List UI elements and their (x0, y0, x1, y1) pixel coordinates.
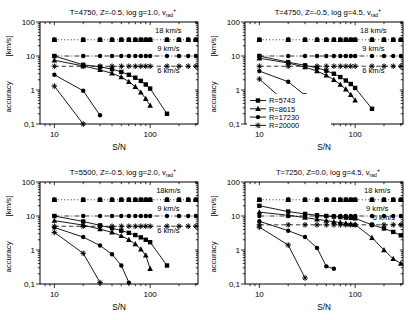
circle-marker (110, 54, 114, 58)
square-marker (349, 216, 353, 220)
panel-bottom-left: T=5500, Z=-0.5, log g=2.0, vrad+10100100… (0, 160, 205, 320)
y-tick-label: 0,1 (229, 120, 241, 129)
square-marker (144, 82, 148, 86)
annotation: 9 km/s (157, 44, 180, 53)
circle-marker (286, 228, 290, 232)
y-axis-label-units: [km/s] (4, 36, 13, 57)
y-axis-label-quantity: accuracy (4, 81, 13, 112)
circle-marker (133, 54, 137, 58)
square-marker (344, 215, 348, 219)
circle-marker (324, 264, 328, 268)
circle-marker (127, 280, 131, 284)
circle-marker (139, 54, 143, 58)
square-marker (382, 226, 386, 230)
circle-marker (186, 214, 190, 218)
circle-marker (81, 54, 85, 58)
panel-bottom-right: T=7250, Z=0.0, log g=4.5, vrad+101001001… (205, 160, 409, 320)
square-marker (370, 107, 374, 111)
square-marker (324, 214, 328, 218)
y-tick-label: 0,1 (24, 280, 36, 289)
circle-marker (186, 54, 190, 58)
circle-marker (144, 54, 148, 58)
x-axis-label: S/N (112, 143, 126, 152)
square-marker (349, 82, 353, 86)
circle-marker (382, 54, 386, 58)
y-axis-label-units: [km/s] (209, 196, 218, 217)
y-axis-label-quantity: accuracy (209, 81, 218, 112)
y-tick-label: 100 (22, 18, 36, 27)
square-marker (338, 75, 342, 79)
annotation: 18km/s (156, 186, 181, 195)
circle-marker (257, 69, 261, 73)
square-marker (338, 215, 342, 219)
square-marker (257, 204, 261, 208)
square-marker (370, 223, 374, 227)
circle-marker (133, 214, 137, 218)
square-marker (344, 78, 348, 82)
circle-marker (81, 235, 85, 239)
y-tick-label: 100 (227, 178, 241, 187)
square-marker (332, 72, 336, 76)
y-axis-label-quantity: accuracy (209, 241, 218, 272)
circle-marker (353, 54, 357, 58)
circle-marker (110, 214, 114, 218)
x-tick-label: 10 (255, 290, 264, 299)
circle-marker (144, 214, 148, 218)
square-marker (127, 231, 131, 235)
circle-marker (139, 214, 143, 218)
square-marker (148, 240, 152, 244)
circle-marker (194, 214, 198, 218)
circle-marker (324, 54, 328, 58)
circle-marker (257, 214, 261, 218)
y-tick-label: 10 (231, 52, 240, 61)
x-tick-label: 10 (255, 130, 264, 139)
y-tick-label: 100 (22, 178, 36, 187)
circle-marker (338, 54, 342, 58)
y-tick-label: 1 (31, 86, 36, 95)
circle-marker (81, 89, 85, 93)
circle-marker (177, 54, 181, 58)
annotation: 18 km/s (155, 26, 182, 35)
y-tick-label: 10 (231, 212, 240, 221)
x-tick-label: 100 (348, 130, 362, 139)
circle-marker (303, 54, 307, 58)
circle-marker (344, 54, 348, 58)
circle-marker (119, 263, 123, 267)
annotation: 6 km/s (157, 66, 180, 75)
square-marker (332, 214, 336, 218)
circle-marker (286, 54, 290, 58)
y-tick-label: 10 (26, 212, 35, 221)
circle-marker (256, 115, 260, 119)
annotation: 9 km/s (362, 44, 385, 53)
circle-marker (194, 54, 198, 58)
legend: R=5743R=8615R=17230R=20000 (247, 94, 331, 130)
square-marker (119, 70, 123, 74)
circle-marker (148, 54, 152, 58)
y-tick-label: 0,1 (24, 120, 36, 129)
x-tick-label: 100 (348, 290, 362, 299)
circle-marker (52, 73, 56, 77)
y-axis-label-units: [km/s] (4, 196, 13, 217)
circle-marker (286, 80, 290, 84)
panel-top-left: T=4750, Z=-0.5, log g=1.0, vrad+10100100… (0, 0, 205, 160)
square-marker (52, 214, 56, 218)
square-marker (353, 86, 357, 90)
y-axis-label-units: [km/s] (209, 36, 218, 57)
circle-marker (98, 243, 102, 247)
legend-label: R=20000 (269, 121, 299, 130)
circle-marker (399, 214, 403, 218)
annotation: 9 km/s (366, 204, 389, 213)
square-marker (391, 230, 395, 234)
square-marker (148, 86, 152, 90)
square-marker (127, 73, 131, 77)
circle-marker (81, 214, 85, 218)
annotation: 18 km/s (360, 26, 387, 35)
circle-marker (315, 54, 319, 58)
circle-marker (303, 235, 307, 239)
square-marker (353, 216, 357, 220)
annotation: 18 km/s (364, 186, 391, 195)
circle-marker (127, 214, 131, 218)
square-marker (144, 238, 148, 242)
circle-marker (165, 54, 169, 58)
y-tick-label: 0,1 (229, 280, 241, 289)
